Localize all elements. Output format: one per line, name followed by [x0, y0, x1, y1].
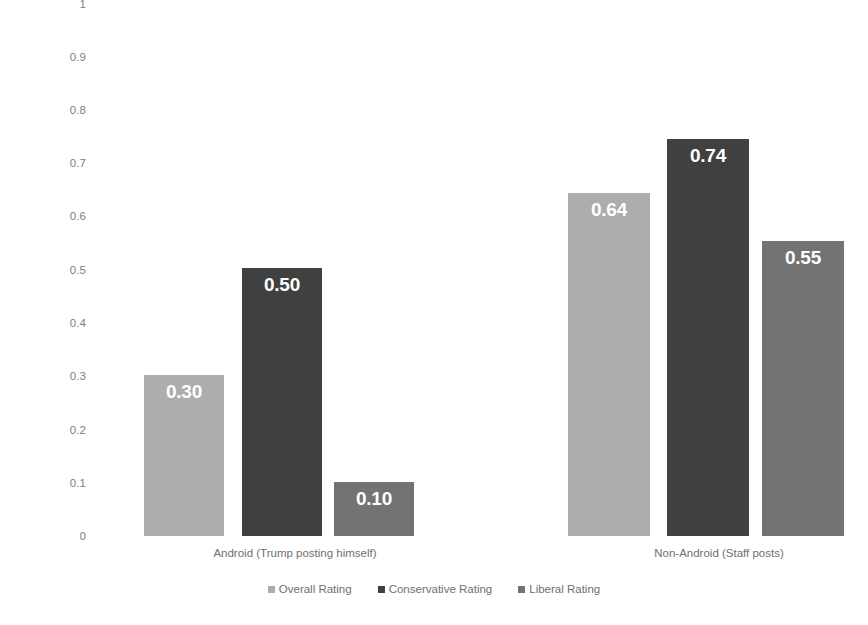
- legend-item-conservative-rating[interactable]: Conservative Rating: [378, 582, 493, 596]
- legend-item-overall-rating[interactable]: Overall Rating: [268, 582, 352, 596]
- y-axis-tick: 0.3: [0, 370, 86, 382]
- bar-fill: [568, 193, 650, 536]
- x-axis: Android (Trump posting himself) Non-Andr…: [92, 545, 860, 563]
- bar-group-non-android: 0.64 0.74 0.55: [554, 0, 868, 536]
- y-axis-tick: 0.8: [0, 104, 86, 116]
- plot-area: 0.30 0.50 0.10 0.64 0.74 0.55: [92, 0, 860, 536]
- y-axis-tick: 1: [0, 0, 86, 10]
- legend-label: Overall Rating: [279, 582, 352, 596]
- y-axis-tick: 0.5: [0, 264, 86, 276]
- bar-fill: [667, 139, 749, 536]
- bar-value-label: 0.10: [334, 488, 414, 510]
- x-axis-category-label: Android (Trump posting himself): [130, 545, 460, 561]
- bar-fill: [762, 241, 844, 536]
- y-axis-tick: 0.2: [0, 424, 86, 436]
- bar-android-overall[interactable]: 0.30: [144, 375, 224, 536]
- chart-legend: Overall Rating Conservative Rating Liber…: [0, 582, 868, 596]
- x-axis-category-label: Non-Android (Staff posts): [554, 545, 868, 561]
- legend-swatch-icon: [378, 586, 385, 593]
- legend-label: Liberal Rating: [529, 582, 600, 596]
- bar-value-label: 0.64: [568, 199, 650, 221]
- bar-value-label: 0.30: [144, 381, 224, 403]
- y-axis-tick: 0: [0, 530, 86, 542]
- y-axis-tick: 0.4: [0, 317, 86, 329]
- bar-android-conservative[interactable]: 0.50: [242, 268, 322, 536]
- bar-non-android-overall[interactable]: 0.64: [568, 193, 650, 536]
- y-axis: 1 0.9 0.8 0.7 0.6 0.5 0.4 0.3 0.2 0.1 0: [0, 0, 86, 545]
- legend-swatch-icon: [268, 586, 275, 593]
- bar-chart: 1 0.9 0.8 0.7 0.6 0.5 0.4 0.3 0.2 0.1 0 …: [0, 0, 868, 625]
- bar-android-liberal[interactable]: 0.10: [334, 482, 414, 536]
- bar-non-android-conservative[interactable]: 0.74: [667, 139, 749, 536]
- bar-value-label: 0.74: [667, 145, 749, 167]
- bar-value-label: 0.55: [762, 247, 844, 269]
- y-axis-tick: 0.7: [0, 157, 86, 169]
- y-axis-tick: 0.1: [0, 477, 86, 489]
- y-axis-tick: 0.9: [0, 51, 86, 63]
- bar-group-android: 0.30 0.50 0.10: [130, 0, 460, 536]
- bar-fill: [242, 268, 322, 536]
- bar-non-android-liberal[interactable]: 0.55: [762, 241, 844, 536]
- legend-label: Conservative Rating: [389, 582, 493, 596]
- legend-item-liberal-rating[interactable]: Liberal Rating: [518, 582, 600, 596]
- bar-value-label: 0.50: [242, 274, 322, 296]
- legend-swatch-icon: [518, 586, 525, 593]
- y-axis-tick: 0.6: [0, 210, 86, 222]
